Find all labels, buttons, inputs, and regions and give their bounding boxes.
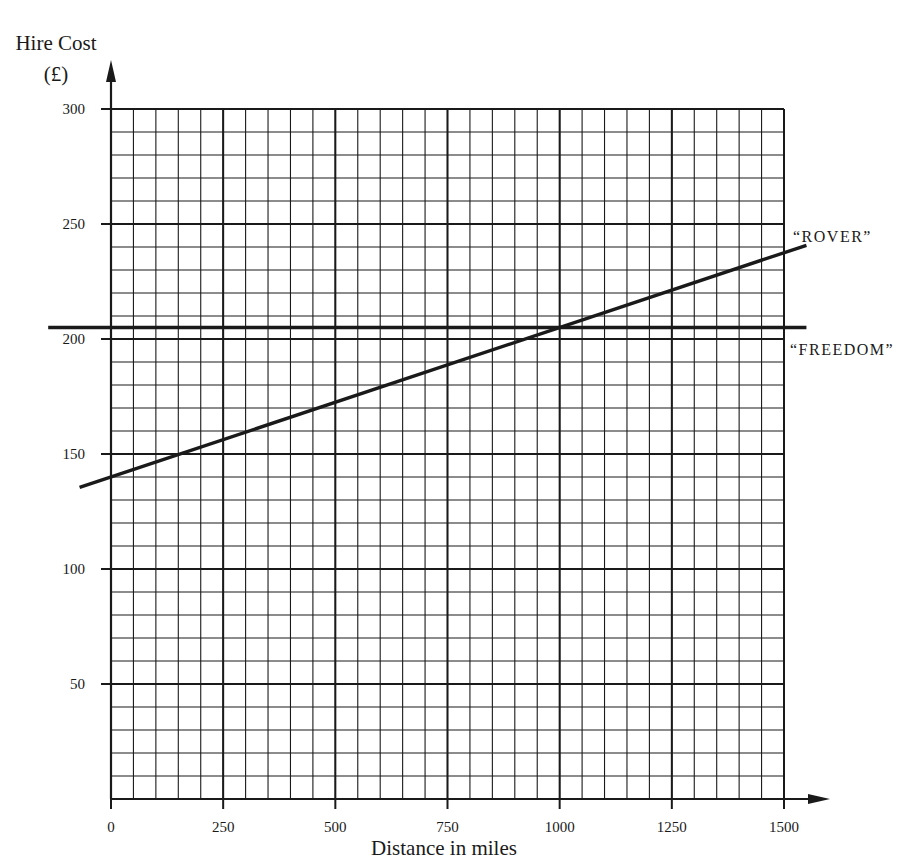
x-tick-label: 1250 (657, 819, 687, 835)
tick-labels: 025050075010001250150050100150200250300 (63, 101, 800, 835)
y-axis-unit: (£) (44, 62, 69, 86)
x-tick-label: 1000 (545, 819, 575, 835)
y-tick-label: 300 (63, 101, 86, 117)
y-axis-title: Hire Cost (15, 31, 96, 55)
y-tick-label: 100 (63, 561, 86, 577)
series-line-rover (80, 245, 807, 487)
legend-label-rover: “ROVER” (793, 228, 872, 245)
series-lines (48, 245, 806, 487)
y-tick-label: 250 (63, 216, 86, 232)
y-tick-label: 200 (63, 331, 86, 347)
x-tick-label: 500 (324, 819, 347, 835)
y-tick-label: 50 (70, 676, 85, 692)
x-axis-arrow-icon (808, 794, 830, 804)
x-tick-label: 0 (107, 819, 115, 835)
line-chart: 025050075010001250150050100150200250300 … (0, 0, 924, 861)
x-axis-title: Distance in miles (371, 836, 517, 860)
axes (106, 60, 830, 804)
major-grid (101, 109, 784, 809)
x-tick-label: 750 (436, 819, 459, 835)
legend-label-freedom: “FREEDOM” (790, 341, 894, 358)
x-tick-label: 250 (212, 819, 235, 835)
y-tick-label: 150 (63, 446, 86, 462)
x-tick-label: 1500 (769, 819, 799, 835)
y-axis-arrow-icon (106, 60, 116, 82)
